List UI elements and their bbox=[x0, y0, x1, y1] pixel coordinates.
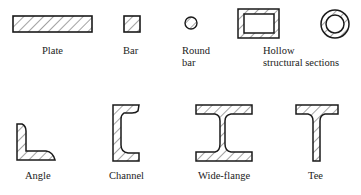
structural-shapes-diagram bbox=[0, 0, 361, 195]
hollow-label-line2: structural sections bbox=[263, 57, 339, 69]
wide-flange-label: Wide-flange bbox=[198, 170, 250, 182]
tee-shape bbox=[296, 105, 338, 161]
plate-label: Plate bbox=[42, 45, 63, 57]
plate-shape bbox=[13, 16, 92, 32]
tee-label: Tee bbox=[308, 170, 323, 182]
angle-label: Angle bbox=[25, 170, 51, 182]
angle-shape bbox=[17, 124, 55, 160]
round-bar-label-line1: Round bbox=[182, 45, 210, 57]
channel-shape bbox=[113, 105, 139, 161]
wide-flange-shape bbox=[196, 105, 252, 161]
round-bar-shape bbox=[185, 17, 197, 29]
hollow-circle-shape bbox=[321, 10, 349, 38]
bar-shape bbox=[124, 16, 140, 32]
hollow-rect-shape bbox=[238, 9, 279, 38]
hollow-label-line1: Hollow bbox=[263, 45, 295, 57]
channel-label: Channel bbox=[109, 170, 144, 182]
round-bar-label-line2: bar bbox=[182, 57, 195, 69]
bar-label: Bar bbox=[123, 45, 138, 57]
